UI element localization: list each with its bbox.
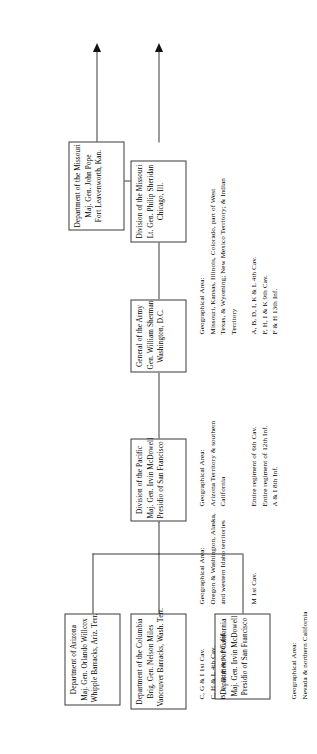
note-california-units: C, G & I 1st Cav.C, H & L 4th Cav.B, C, … (196, 631, 228, 699)
note-line: B, C, D, F & K 8th Inf. (217, 631, 228, 699)
node-line: Brig. Gen. Nelson Miles (145, 616, 156, 706)
node-line: Whipple Barracks, Ariz. Terr. (89, 616, 100, 702)
node-line: Vancouver Barracks, Wash. Terr. (155, 616, 166, 706)
node-general-of-the-army[interactable]: General of the Army Gen. William Sherman… (130, 299, 186, 372)
node-line: Presidio of San Francisco (155, 441, 166, 518)
note-line: Oregon & Washington, Alaska, (207, 513, 218, 604)
node-line: Presidio of San Francisco (239, 616, 250, 696)
note-line: Arizona Territory & southern (207, 420, 218, 506)
note-heading: Geographical Area: (196, 513, 207, 604)
note-line: Missouri, Kansas, Illinois, Colorado, pa… (207, 178, 218, 334)
note-line: Entire regiment of 6th Cav. (248, 425, 259, 506)
node-division-of-the-missouri[interactable]: Division of the Missouri Lt. Gen. Philip… (130, 160, 186, 242)
note-missouri-area: Geographical Area:Missouri, Kansas, Illi… (196, 178, 239, 334)
node-line: Maj. Gen. Irvin McDowell (145, 441, 156, 518)
node-line: Division of the Missouri (134, 163, 145, 239)
diagram-canvas: General of the Army Gen. William Sherman… (0, 0, 317, 754)
note-heading: Geographical Area: (196, 420, 207, 506)
note-line: A, B, D, I, K & L 4th Cav. (248, 256, 259, 334)
org-chart-stage: General of the Army Gen. William Sherman… (0, 0, 317, 754)
connector-arrow-rail-department (96, 46, 97, 142)
connector-pacific-to-california (242, 553, 243, 614)
node-department-of-the-missouri[interactable]: Department of the Missouri Maj. Gen. Joh… (68, 141, 124, 230)
note-line: A & I 8th Inf. (269, 425, 280, 506)
note-line: F & H 13th Inf. (269, 256, 280, 334)
note-missouri-units: A, B, D, I, K & L 4th Cav.F, H, I & K 9t… (248, 256, 280, 334)
node-line: Washington, D.C. (155, 302, 166, 369)
connector-pacific-to-columbia (158, 553, 159, 614)
note-columbia-area: Geographical Area:Oregon & Washington, A… (196, 513, 228, 604)
note-arizona-area: Geographical Area:Arizona Territory & so… (196, 420, 228, 506)
node-line: Gen. William Sherman (145, 302, 156, 369)
note-arizona-units: Entire regiment of 6th Cav.Entire regime… (248, 425, 280, 506)
note-line: and western Idaho territories (217, 513, 228, 604)
note-california-area: Geographical Area:Nevada & northern Cali… (288, 611, 309, 699)
node-line: Maj. Gen. Orlando Willcox (79, 616, 90, 702)
node-department-of-arizona[interactable]: Department of Arizona Maj. Gen. Orlando … (64, 613, 120, 705)
node-line: Fort Leavenworth, Kan. (93, 144, 104, 227)
node-line: Maj. Gen. Irvin McDowell (229, 616, 240, 696)
connector-pacific-to-arizona (92, 553, 93, 614)
note-heading: Geographical Area: (288, 611, 299, 699)
arrow-head-department-missouri (92, 43, 100, 52)
note-line: F, H, I & K 9th Cav. (259, 256, 270, 334)
node-line: Maj. Gen. John Pope (83, 144, 94, 227)
note-heading: Geographical Area: (196, 178, 207, 334)
note-line: C, G & I 1st Cav. (196, 631, 207, 699)
node-line: Department of the Columbia (134, 616, 145, 706)
connector-arrow-rail-division (158, 46, 159, 142)
note-line: Territory (228, 178, 239, 334)
note-line: Texas, & Wyoming; New Mexico Territory; … (217, 178, 228, 334)
node-line: Chicago, Ill. (155, 163, 166, 239)
arrow-head-division-missouri (154, 43, 162, 52)
node-line: Division of the Pacific (134, 441, 145, 518)
node-division-of-the-pacific[interactable]: Division of the Pacific Maj. Gen. Irvin … (130, 438, 186, 521)
note-line: M 1st Cav. (248, 572, 259, 604)
node-department-of-the-columbia[interactable]: Department of the Columbia Brig. Gen. Ne… (130, 613, 186, 709)
note-line: Entire regiment of 12th Inf. (259, 425, 270, 506)
node-line: Department of the Missouri (72, 144, 83, 227)
node-line: General of the Army (134, 302, 145, 369)
note-line: California (217, 420, 228, 506)
node-line: Department of Arizona (68, 616, 79, 702)
connector-pacific-bus-stub (158, 521, 159, 554)
note-columbia-units: M 1st Cav. (248, 572, 259, 604)
note-line: C, H & L 4th Cav. (207, 631, 218, 699)
node-line: Lt. Gen. Philip Sheridan (145, 163, 156, 239)
note-line: Nevada & northern California (299, 611, 310, 699)
